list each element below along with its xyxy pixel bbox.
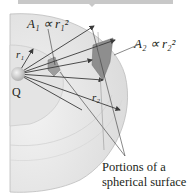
caption: Portions of a spherical surface [102,160,186,190]
label-r1: r₁ [16,49,24,60]
label-r2: r₂ [92,92,100,103]
caption-line-2: spherical surface [102,175,186,190]
label-a2: A₂ ∝ r₂² [134,37,175,50]
top-callout-bar [18,0,173,7]
point-charge [11,67,25,81]
label-a1: A₁ ∝ r₁² [27,17,68,30]
caption-line-1: Portions of a [102,160,186,175]
label-charge: Q [12,86,21,98]
